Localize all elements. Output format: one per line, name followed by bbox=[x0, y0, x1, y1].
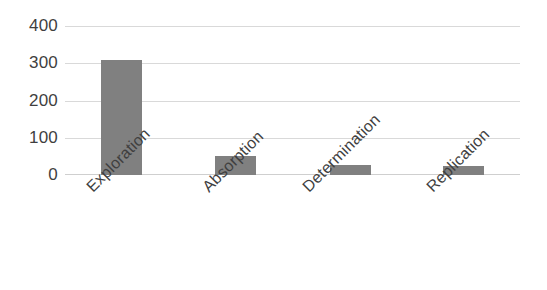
y-tick-label-200: 200 bbox=[29, 91, 58, 111]
y-tick-label-400: 400 bbox=[29, 16, 58, 36]
y-tick-label-100: 100 bbox=[29, 128, 58, 148]
y-axis: 400 300 200 100 0 bbox=[0, 26, 58, 175]
y-tick-label-300: 300 bbox=[29, 53, 58, 73]
bar-chart-figure: 400 300 200 100 0 Exploration Absorption… bbox=[0, 0, 547, 290]
y-tick-label-0: 0 bbox=[48, 165, 58, 185]
x-axis: Exploration Absorption Determination Rep… bbox=[65, 175, 520, 290]
